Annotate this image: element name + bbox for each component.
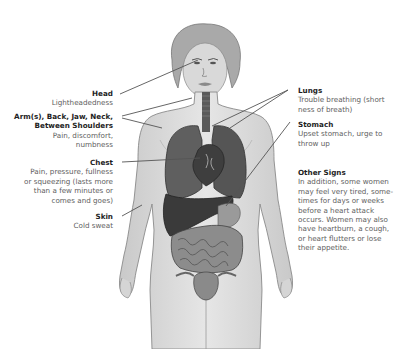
- label-chest-desc-1: Pain, pressure, fullness: [0, 167, 113, 176]
- label-other-desc-8: their appetite.: [298, 243, 404, 252]
- label-chest-title: Chest: [0, 158, 113, 167]
- label-lungs-desc-2: ness of breath): [298, 105, 404, 114]
- label-skin: Skin Cold sweat: [3, 212, 113, 231]
- label-head-title: Head: [3, 89, 113, 98]
- label-lungs-desc-1: Trouble breathing (short: [298, 95, 404, 104]
- label-stomach-desc-2: throw up: [298, 139, 404, 148]
- symptom-diagram: Head Lightheadedness Arm(s), Back, Jaw, …: [0, 0, 404, 349]
- label-lungs-title: Lungs: [298, 86, 404, 95]
- label-arms-title-2: Between Shoulders: [0, 121, 113, 130]
- label-chest-desc-3: than a few minutes or: [0, 186, 113, 195]
- label-other-signs: Other Signs In addition, some women may …: [298, 168, 404, 253]
- label-head-desc: Lightheadedness: [3, 98, 113, 107]
- label-chest-desc-4: comes and goes): [0, 196, 113, 205]
- label-skin-desc: Cold sweat: [3, 221, 113, 230]
- label-chest: Chest Pain, pressure, fullness or squeez…: [0, 158, 113, 205]
- face: [183, 43, 227, 97]
- label-arms-desc-2: numbness: [0, 140, 113, 149]
- label-skin-title: Skin: [3, 212, 113, 221]
- label-other-desc-4: before a heart attack: [298, 206, 404, 215]
- label-stomach-desc-1: Upset stomach, urge to: [298, 129, 404, 138]
- label-other-desc-1: In addition, some women: [298, 177, 404, 186]
- label-other-desc-5: occurs. Women may also: [298, 215, 404, 224]
- label-stomach: Stomach Upset stomach, urge to throw up: [298, 120, 404, 148]
- label-other-title: Other Signs: [298, 168, 404, 177]
- trachea: [202, 92, 210, 132]
- label-arms-desc-1: Pain, discomfort,: [0, 131, 113, 140]
- label-arms-title-1: Arm(s), Back, Jaw, Neck,: [0, 112, 113, 121]
- intestines: [171, 225, 242, 272]
- label-other-desc-3: times for days or weeks: [298, 196, 404, 205]
- label-other-desc-6: have heartburn, a cough,: [298, 224, 404, 233]
- label-lungs: Lungs Trouble breathing (short ness of b…: [298, 86, 404, 114]
- label-other-desc-7: or heart flutters or lose: [298, 234, 404, 243]
- label-arms: Arm(s), Back, Jaw, Neck, Between Shoulde…: [0, 112, 113, 150]
- label-other-desc-2: may feel very tired, some-: [298, 187, 404, 196]
- label-head: Head Lightheadedness: [3, 89, 113, 108]
- label-stomach-title: Stomach: [298, 120, 404, 129]
- label-chest-desc-2: or squeezing (lasts more: [0, 177, 113, 186]
